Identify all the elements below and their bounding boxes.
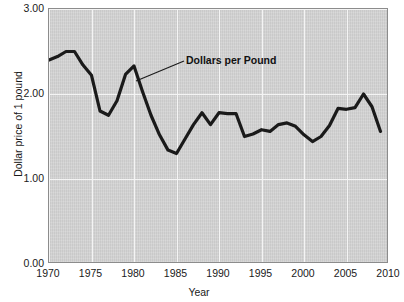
- annotation-dollars-per-pound: Dollars per Pound: [186, 54, 276, 66]
- x-tick-1970: 1970: [25, 268, 71, 279]
- x-tick-1985: 1985: [153, 268, 199, 279]
- x-tick-1990: 1990: [195, 268, 241, 279]
- y-tick-3.00: 3.00: [2, 3, 44, 14]
- plot-area: [48, 8, 388, 263]
- x-tick-2000: 2000: [280, 268, 326, 279]
- x-tick-1980: 1980: [110, 268, 156, 279]
- x-axis-label: Year: [0, 286, 398, 298]
- data-line-series: [49, 9, 388, 263]
- x-tick-2010: 2010: [365, 268, 404, 279]
- x-tick-1975: 1975: [68, 268, 114, 279]
- x-tick-1995: 1995: [238, 268, 284, 279]
- x-tick-2005: 2005: [323, 268, 369, 279]
- y-axis-label: Dollar price of 1 pound: [12, 44, 24, 204]
